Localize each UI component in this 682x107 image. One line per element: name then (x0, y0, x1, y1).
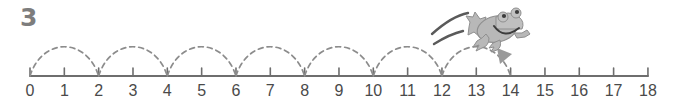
tick-label: 16 (570, 82, 588, 100)
tick-label: 12 (433, 82, 451, 100)
tick-label: 18 (639, 82, 657, 100)
tick-label: 6 (232, 82, 241, 100)
tick-label: 10 (364, 82, 382, 100)
tick-label: 4 (163, 82, 172, 100)
motion-lines-icon (432, 13, 468, 44)
tick-label: 5 (197, 82, 206, 100)
tick-marks (30, 68, 648, 76)
tick-label: 13 (467, 82, 485, 100)
tick-label: 2 (94, 82, 103, 100)
tick-label: 8 (300, 82, 309, 100)
tick-label: 14 (502, 82, 520, 100)
tick-label: 7 (266, 82, 275, 100)
tick-label: 3 (129, 82, 138, 100)
tick-label: 0 (26, 82, 35, 100)
frog-icon (466, 8, 530, 52)
number-line-figure: 3 (0, 0, 682, 107)
tick-label: 1 (60, 82, 69, 100)
tick-label: 17 (605, 82, 623, 100)
tick-label: 11 (399, 82, 416, 100)
tick-label: 15 (536, 82, 554, 100)
tick-label: 9 (335, 82, 344, 100)
